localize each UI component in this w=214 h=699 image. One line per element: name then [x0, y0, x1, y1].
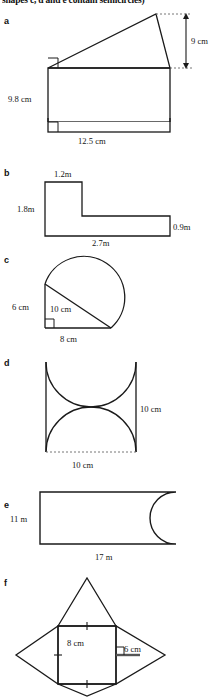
dim-c-6cm: 6 cm — [12, 302, 29, 312]
dim-b-18m: 1.8m — [17, 204, 35, 214]
semicircle-d-bottom — [46, 407, 136, 452]
dim-c-8cm: 8 cm — [60, 334, 77, 344]
square-f — [58, 626, 116, 684]
dim-a-98cm: 9.8 cm — [8, 94, 32, 104]
figure-c: 6 cm 10 cm 8 cm — [0, 252, 214, 348]
right-angle-marker-c — [45, 319, 54, 328]
dim-a-9cm: 9 cm — [191, 36, 208, 46]
triangle-f-left — [16, 626, 58, 684]
dim-b-09m: 0.9m — [173, 222, 191, 232]
dim-b-12m: 1.2m — [54, 169, 72, 179]
dim-f-8cm: 8 cm — [67, 638, 84, 648]
dim-b-27m: 2.7m — [92, 238, 110, 248]
dim-e-11m: 11 m — [10, 514, 27, 524]
dim-d-10cm-right: 10 cm — [140, 404, 162, 414]
figure-a-bottom: 12.5 cm — [0, 118, 214, 154]
rect-a-lower — [48, 118, 170, 132]
shape-e-outline — [40, 492, 176, 544]
triangle-f-top — [58, 578, 116, 626]
dim-d-10cm-bottom: 10 cm — [72, 460, 94, 470]
worksheet-page: shapes c, d and e contain semicircles) a… — [0, 0, 214, 699]
figure-b: 1.2m 1.8m 0.9m 2.7m — [0, 160, 214, 248]
rect-a — [48, 68, 170, 122]
dim-f-6cm: 6 cm — [124, 644, 141, 654]
dim-c-10cm: 10 cm — [50, 304, 72, 314]
figure-a: 9 cm 9.8 cm — [0, 10, 214, 122]
right-angle-marker-f — [116, 647, 124, 655]
instruction-text: shapes c, d and e contain semicircles) — [2, 0, 214, 5]
triangle-a — [48, 14, 170, 68]
figure-e: 11 m 17 m — [0, 484, 214, 566]
dim-a-125cm: 12.5 cm — [78, 136, 106, 146]
l-shape-b — [45, 182, 170, 236]
right-angle-marker-a-bottom — [48, 122, 58, 132]
right-angle-marker-a-top — [48, 58, 58, 68]
dim-e-17m: 17 m — [95, 552, 113, 562]
semicircle-d-top — [46, 362, 136, 407]
figure-f: 8 cm 6 cm — [0, 572, 214, 699]
figure-d: 10 cm 10 cm — [0, 352, 214, 474]
